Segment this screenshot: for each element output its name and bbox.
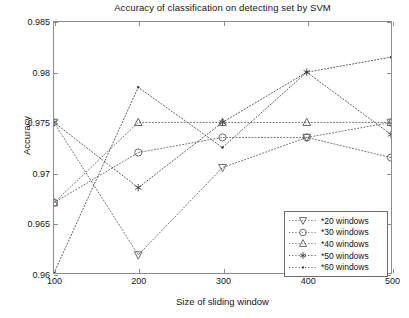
x-tick-mark [224,22,225,26]
x-tick-mark [393,22,394,26]
legend-item-3[interactable]: *50 windows [288,250,383,262]
x-tick-mark [55,269,56,273]
x-axis-label: Size of sliding window [53,296,392,307]
x-tick-label: 300 [216,276,231,286]
y-tick-mark [387,22,391,23]
legend-label: *50 windows [318,251,369,261]
marker-dot [306,71,308,73]
y-tick-mark [387,174,391,175]
x-tick-label: 500 [385,276,400,286]
marker-circle [219,134,226,141]
legend-marker-circle-icon [288,227,318,238]
marker-dot [390,56,391,58]
y-tick-mark [54,174,58,175]
chart-figure: Accuracy of classification on detecting … [0,0,409,318]
x-tick-mark [224,269,225,273]
marker-dot [221,146,223,148]
legend-label: *20 windows [318,216,369,226]
y-tick-label: 0.97 [32,169,50,179]
y-tick-label: 0.98 [32,68,50,78]
legend-marker-triangle-up-icon [288,238,318,249]
y-tick-mark [387,123,391,124]
x-tick-mark [308,22,309,26]
marker-dot [137,86,139,88]
marker-asterisk [135,184,141,191]
marker-dot [302,266,304,268]
y-axis-label: Accuracy [21,76,32,196]
marker-circle [135,149,142,156]
marker-triangle-down [299,218,306,225]
x-tick-mark [139,22,140,26]
marker-triangle-up [299,240,306,247]
marker-asterisk [388,131,391,138]
marker-triangle-up [303,118,311,125]
legend-marker-triangle-down-icon [288,215,318,226]
legend-label: *30 windows [318,227,369,237]
legend-marker-asterisk-icon [288,250,318,261]
legend-item-4[interactable]: *60 windows [288,261,383,273]
legend-marker-dot-icon [288,262,318,273]
legend-item-2[interactable]: *40 windows [288,238,383,250]
y-tick-label: 0.965 [27,219,50,229]
legend-label: *40 windows [318,239,369,249]
y-tick-mark [54,224,58,225]
x-tick-mark [393,269,394,273]
y-tick-mark [54,123,58,124]
marker-triangle-up [134,118,142,125]
x-tick-mark [139,269,140,273]
x-tick-label: 100 [47,276,62,286]
y-tick-label: 0.985 [27,17,50,27]
x-tick-label: 400 [301,276,316,286]
series-line [54,72,391,187]
chart-legend: *20 windows*30 windows*40 windows*50 win… [284,211,388,277]
marker-triangle-down [134,252,142,259]
series-3 [54,69,391,192]
x-tick-mark [55,22,56,26]
chart-title: Accuracy of classification on detecting … [53,2,392,14]
y-tick-mark [54,73,58,74]
series-1 [54,134,391,206]
legend-item-1[interactable]: *30 windows [288,227,383,239]
y-tick-mark [387,73,391,74]
x-tick-label: 200 [131,276,146,286]
legend-label: *60 windows [318,262,369,272]
legend-item-0[interactable]: *20 windows [288,215,383,227]
